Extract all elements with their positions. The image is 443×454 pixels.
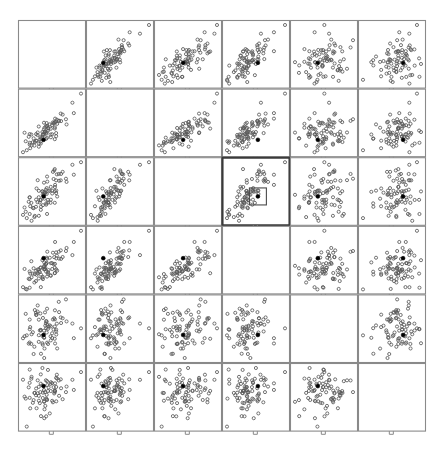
splom-diagonal-cell-spleen[interactable] (223, 226, 290, 297)
highlighted-point[interactable] (101, 333, 105, 337)
splom-cell-liver-vs-kidney[interactable] (291, 158, 358, 229)
splom-cell-spleen-vs-liver[interactable] (155, 226, 222, 297)
splom-diagonal-cell-kidney[interactable] (291, 295, 358, 366)
cell-frame (87, 89, 154, 157)
splom-diagonal-cell-liver[interactable] (155, 158, 222, 229)
highlighted-point[interactable] (316, 138, 320, 142)
splom-cell-lung-vs-heart[interactable] (87, 21, 154, 92)
highlighted-point[interactable] (181, 61, 185, 65)
highlighted-point[interactable] (401, 195, 405, 199)
highlighted-point[interactable] (42, 195, 46, 199)
highlighted-point[interactable] (181, 256, 185, 260)
highlighted-point[interactable] (181, 333, 185, 337)
splom-cell-lung-vs-testes[interactable] (359, 21, 426, 92)
splom-cell-lung-vs-liver[interactable] (155, 21, 222, 92)
highlighted-point[interactable] (316, 61, 320, 65)
highlighted-point[interactable] (401, 333, 405, 337)
highlighted-point[interactable] (401, 61, 405, 65)
highlighted-point[interactable] (256, 61, 260, 65)
splom-cell-kidney-vs-lung[interactable] (19, 295, 86, 366)
highlighted-point[interactable] (101, 195, 105, 199)
splom-cell-spleen-vs-testes[interactable] (359, 226, 426, 297)
splom-cell-spleen-vs-kidney[interactable] (291, 226, 358, 297)
highlighted-point[interactable] (42, 384, 46, 388)
splom-cell-heart-vs-lung[interactable] (19, 89, 86, 160)
splom-canvas[interactable] (0, 0, 443, 454)
splom-cell-liver-vs-heart[interactable] (87, 158, 154, 229)
highlighted-point[interactable] (256, 384, 260, 388)
scatterplot-matrix[interactable] (0, 0, 443, 454)
cell-frame (291, 226, 358, 294)
cell-frame (223, 364, 290, 432)
splom-cell-testes-vs-liver[interactable] (155, 364, 222, 435)
splom-cell-kidney-vs-spleen[interactable] (223, 295, 290, 366)
highlighted-point[interactable] (256, 138, 260, 142)
cell-frame (223, 21, 290, 89)
highlighted-point[interactable] (101, 384, 105, 388)
splom-cell-heart-vs-liver[interactable] (155, 89, 222, 160)
highlighted-point[interactable] (181, 138, 185, 142)
cell-frame (223, 295, 290, 363)
splom-diagonal-cell-heart[interactable] (87, 89, 154, 160)
highlighted-point[interactable] (101, 61, 105, 65)
cell-frame (155, 158, 222, 226)
cell-frame (359, 226, 426, 294)
splom-cell-liver-vs-spleen[interactable] (223, 158, 290, 229)
highlighted-point[interactable] (316, 384, 320, 388)
splom-cell-liver-vs-testes[interactable] (359, 158, 426, 229)
highlighted-point[interactable] (256, 333, 260, 337)
splom-diagonal-cell-testes[interactable] (359, 364, 426, 435)
highlighted-point[interactable] (256, 195, 260, 199)
splom-cell-spleen-vs-heart[interactable] (87, 226, 154, 297)
splom-cell-heart-vs-testes[interactable] (359, 89, 426, 160)
splom-cell-lung-vs-spleen[interactable] (223, 21, 290, 92)
splom-cell-heart-vs-spleen[interactable] (223, 89, 290, 160)
highlighted-point[interactable] (316, 256, 320, 260)
highlighted-point[interactable] (316, 195, 320, 199)
cell-frame (19, 21, 86, 89)
highlighted-point[interactable] (101, 256, 105, 260)
cell-frame (291, 295, 358, 363)
cell-frame (359, 364, 426, 432)
highlighted-point[interactable] (42, 138, 46, 142)
cell-frame (223, 226, 290, 294)
highlighted-point[interactable] (181, 384, 185, 388)
highlighted-point[interactable] (401, 138, 405, 142)
splom-cell-spleen-vs-lung[interactable] (19, 226, 86, 297)
splom-cell-testes-vs-kidney[interactable] (291, 364, 358, 435)
splom-cell-testes-vs-lung[interactable] (19, 364, 86, 435)
splom-diagonal-cell-lung[interactable] (19, 21, 86, 92)
splom-cell-kidney-vs-testes[interactable] (359, 295, 426, 366)
splom-cell-heart-vs-kidney[interactable] (291, 89, 358, 160)
cell-frame (19, 226, 86, 294)
splom-cell-testes-vs-heart[interactable] (87, 364, 154, 435)
splom-cell-lung-vs-kidney[interactable] (291, 21, 358, 92)
splom-cell-liver-vs-lung[interactable] (19, 158, 86, 229)
highlighted-point[interactable] (401, 256, 405, 260)
highlighted-point[interactable] (42, 256, 46, 260)
splom-cell-testes-vs-spleen[interactable] (223, 364, 290, 435)
highlighted-point[interactable] (42, 333, 46, 337)
splom-cell-kidney-vs-liver[interactable] (155, 295, 222, 366)
splom-cell-kidney-vs-heart[interactable] (87, 295, 154, 366)
